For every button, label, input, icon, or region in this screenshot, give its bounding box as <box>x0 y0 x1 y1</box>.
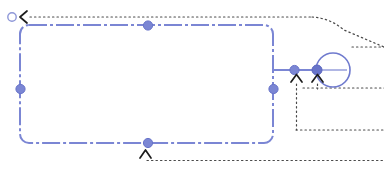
handle-layer[interactable] <box>8 13 322 148</box>
handle-middle-left[interactable] <box>16 84 25 93</box>
guide-diagonal <box>312 17 384 47</box>
canvas-surface[interactable] <box>0 0 384 172</box>
arrow-up-left-icon <box>291 75 302 83</box>
handle-bottom-center[interactable] <box>143 138 152 147</box>
connector-midpoint-handle[interactable] <box>290 65 299 74</box>
shape-selection-canvas[interactable]: Vector editor canvas with a selected rou… <box>0 0 384 172</box>
handle-top-center[interactable] <box>143 21 152 30</box>
rounded-rectangle[interactable] <box>20 25 273 143</box>
guide-layer <box>30 17 384 161</box>
arrow-up-bottom-center-icon <box>140 150 151 158</box>
selected-shape-group[interactable] <box>20 25 273 143</box>
arrow-layer <box>20 11 323 158</box>
handle-middle-right[interactable] <box>269 84 278 93</box>
connector-anchor-handle[interactable] <box>312 65 322 75</box>
rotate-handle-icon[interactable] <box>8 13 16 21</box>
arrow-left-top-icon <box>20 11 27 23</box>
